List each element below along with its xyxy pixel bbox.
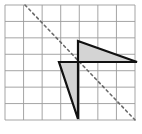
geometry-figure xyxy=(0,0,142,134)
figure-canvas xyxy=(0,0,142,134)
lower-triangle xyxy=(59,62,78,119)
upper-triangle xyxy=(78,41,137,62)
